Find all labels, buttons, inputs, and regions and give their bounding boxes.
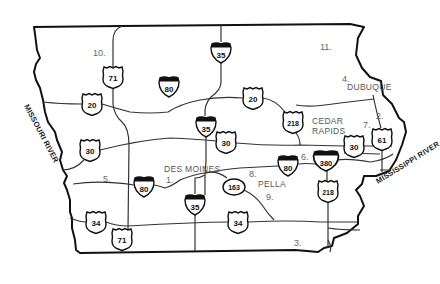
- interstate-shield-35: 35: [211, 43, 231, 63]
- svg-text:61: 61: [378, 136, 387, 145]
- marker-5: 5.: [103, 174, 111, 184]
- interstate-shield-35: 35: [196, 117, 216, 137]
- city-label-dubuque: DUBUQUE: [347, 82, 392, 92]
- svg-text:35: 35: [202, 125, 211, 134]
- interstate-shield-80: 80: [159, 77, 179, 97]
- svg-text:71: 71: [109, 74, 118, 83]
- us-shield-61: 61: [372, 129, 392, 151]
- svg-text:30: 30: [86, 147, 95, 156]
- city-label-pella: PELLA: [258, 179, 286, 189]
- iowa-highway-map: 35 80 35 80 35 80 380 71 20 20 218 30 30…: [0, 0, 440, 284]
- interstate-shield-80: 80: [278, 156, 298, 176]
- us-shield-34: 34: [228, 212, 248, 234]
- us-route-shields: 71 20 20 218 30 30 30 61 218 34 34 71: [80, 67, 392, 251]
- us-shield-30: 30: [80, 140, 100, 162]
- marker-9: 9.: [266, 192, 274, 202]
- svg-text:30: 30: [222, 139, 231, 148]
- svg-text:80: 80: [284, 164, 293, 173]
- marker-1: 1.: [166, 175, 174, 185]
- svg-text:20: 20: [249, 95, 258, 104]
- us-shield-20: 20: [243, 88, 263, 110]
- svg-text:35: 35: [191, 203, 200, 212]
- svg-text:30: 30: [350, 143, 359, 152]
- svg-text:71: 71: [118, 236, 127, 245]
- svg-text:20: 20: [88, 101, 97, 110]
- marker-7: 7.: [363, 120, 371, 130]
- marker-11: 11.: [320, 42, 332, 52]
- svg-text:163: 163: [228, 184, 240, 191]
- svg-text:80: 80: [165, 85, 174, 94]
- us-shield-218: 218: [318, 181, 338, 203]
- svg-text:218: 218: [322, 189, 334, 196]
- us-shield-34: 34: [86, 212, 106, 234]
- interstate-shield-35: 35: [185, 195, 205, 215]
- us-shield-218: 218: [283, 112, 303, 134]
- svg-text:34: 34: [92, 219, 101, 228]
- us-shield-30: 30: [344, 136, 364, 158]
- us-shield-20: 20: [82, 94, 102, 116]
- svg-text:218: 218: [287, 120, 299, 127]
- interstate-shield-380-label: 380: [320, 159, 333, 168]
- marker-4: 4.: [342, 74, 350, 84]
- svg-text:34: 34: [234, 219, 243, 228]
- svg-text:80: 80: [140, 185, 149, 194]
- svg-text:35: 35: [217, 51, 226, 60]
- city-label-cedar: CEDAR: [312, 116, 343, 126]
- marker-6: 6.: [301, 152, 309, 162]
- us-shield-30: 30: [216, 132, 236, 154]
- city-label-rapids: RAPIDS: [312, 126, 345, 136]
- city-label-des-moines: DES MOINES: [164, 164, 220, 174]
- us-shield-71: 71: [103, 67, 123, 89]
- marker-10: 10.: [93, 48, 106, 58]
- marker-2: 2.: [376, 111, 384, 121]
- marker-3: 3.: [294, 238, 302, 248]
- state-route-shield-163: 163: [223, 179, 245, 195]
- interstate-shield-80: 80: [134, 177, 154, 197]
- us-shield-71: 71: [112, 229, 132, 251]
- marker-8: 8.: [249, 169, 257, 179]
